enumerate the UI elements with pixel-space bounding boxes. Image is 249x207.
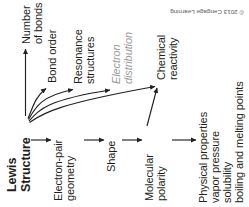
node-molecular-polarity-line1: Molecular [143, 154, 155, 201]
node-molecular-polarity-line2: polarity [155, 154, 167, 201]
edge-molecular-polarity-to-chemical-reactivity [147, 88, 157, 126]
node-chemical-reactivity-line1: Chemical [155, 35, 167, 80]
node-number-of-bonds-line2: of bonds [32, 3, 44, 44]
node-bond-order: Bond order [46, 30, 58, 83]
node-electron-pair-geometry-line1: Electron-pair [52, 140, 64, 201]
node-shape: Shape [105, 141, 117, 172]
node-physical-properties-line4: boiling and melting points [233, 81, 245, 203]
node-resonance-structures: Resonance structures [72, 29, 96, 84]
node-molecular-polarity: Molecular polarity [143, 154, 167, 201]
node-electron-pair-geometry: Electron-pair geometry [52, 140, 76, 201]
node-chemical-reactivity-line2: reactivity [167, 35, 179, 80]
node-electron-distribution-line2: distribution [122, 32, 134, 84]
node-bond-order-line1: Bond order [46, 30, 58, 83]
node-shape-line1: Shape [105, 141, 117, 172]
node-lewis-structure: Lewis Structure [6, 137, 33, 192]
node-electron-distribution-line1: Electron [110, 32, 122, 84]
node-number-of-bonds: Number of bonds [20, 3, 44, 44]
node-physical-properties-line3: solubility [221, 81, 233, 203]
node-physical-properties: Physical properties vapor pressure solub… [197, 81, 245, 203]
node-electron-distribution: Electron distribution [110, 32, 134, 84]
node-lewis-structure-line2: Structure [20, 137, 34, 192]
node-physical-properties-line1: Physical properties [197, 81, 209, 203]
edge-lewis-to-electron-distribution [29, 90, 110, 121]
node-number-of-bonds-line1: Number [20, 3, 32, 44]
node-resonance-structures-line1: Resonance [72, 29, 84, 84]
node-resonance-structures-line2: structures [84, 29, 96, 84]
node-lewis-structure-line1: Lewis [6, 137, 20, 192]
edge-lewis-to-chemical-reactivity [30, 87, 156, 123]
node-chemical-reactivity: Chemical reactivity [155, 35, 179, 80]
lewis-structure-flowchart: Lewis Structure Number of bonds Bond ord… [0, 0, 249, 207]
node-electron-pair-geometry-line2: geometry [64, 140, 76, 201]
copyright-notice: © 2013 Cengage Learning [170, 9, 244, 16]
node-physical-properties-line2: vapor pressure [209, 81, 221, 203]
